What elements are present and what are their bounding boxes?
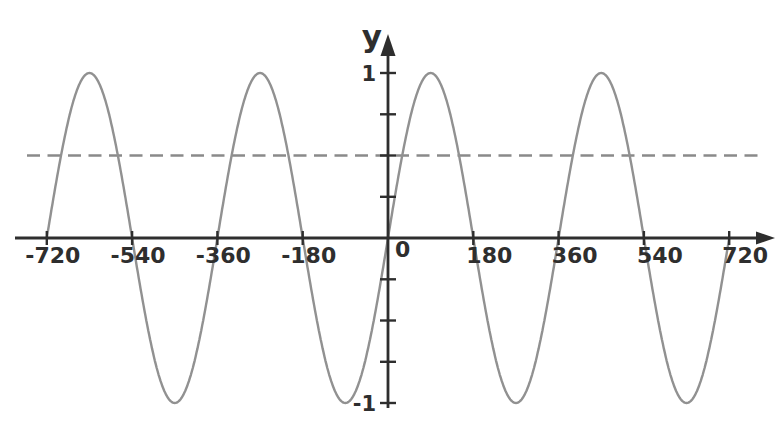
sine-wave-chart: -720-540-360-1801803605407201-10y <box>0 0 783 425</box>
graph-page: -720-540-360-1801803605407201-10y <box>0 0 783 425</box>
x-tick-label: -180 <box>281 243 336 268</box>
x-tick-label: 180 <box>466 243 512 268</box>
x-tick-label: -720 <box>25 243 80 268</box>
origin-label: 0 <box>395 237 410 262</box>
x-tick-label: -540 <box>111 243 166 268</box>
y-axis-label: y <box>362 18 382 54</box>
x-tick-label: 540 <box>637 243 683 268</box>
x-tick-label: 720 <box>722 243 768 268</box>
y-tick-label: -1 <box>353 392 376 416</box>
y-tick-label: 1 <box>361 62 376 86</box>
y-axis-arrowhead <box>381 34 396 56</box>
x-tick-label: 360 <box>552 243 598 268</box>
x-tick-label: -360 <box>196 243 251 268</box>
